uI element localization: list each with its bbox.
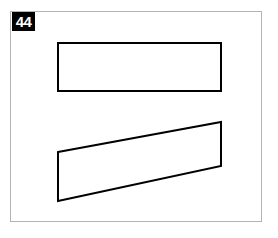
screenshot-canvas: 44 — [0, 0, 278, 238]
index-badge: 44 — [12, 12, 35, 31]
shapes-canvas — [0, 0, 278, 238]
shapes-svg — [0, 0, 278, 238]
bottom-parallelogram-shape — [58, 122, 221, 201]
top-rectangle-shape — [58, 43, 221, 91]
